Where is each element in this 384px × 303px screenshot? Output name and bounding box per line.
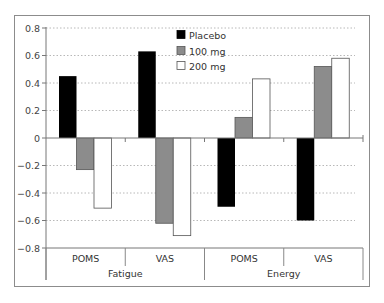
bar-100-mg bbox=[156, 138, 174, 223]
bar-placebo bbox=[59, 76, 77, 138]
y-tick-label: −0.4 bbox=[17, 188, 40, 199]
y-axis-ticks: 0.80.60.40.20−0.2−0.4−0.6−0.8 bbox=[17, 23, 46, 254]
legend-label: 100 mg bbox=[189, 46, 225, 57]
bar-placebo bbox=[218, 138, 236, 207]
bar-200-mg bbox=[173, 138, 191, 236]
x-category-label: VAS bbox=[314, 253, 332, 264]
y-tick-label: 0.2 bbox=[25, 105, 40, 116]
bar-200-mg bbox=[253, 79, 271, 138]
legend-label: Placebo bbox=[189, 30, 226, 41]
legend-swatch bbox=[177, 31, 185, 39]
y-tick-label: −0.6 bbox=[17, 215, 40, 226]
bar-200-mg bbox=[94, 138, 112, 208]
bar-placebo bbox=[138, 51, 156, 138]
x-axis-labels: POMSVASPOMSVASFatigueEnergy bbox=[46, 248, 363, 280]
legend-swatch bbox=[177, 47, 185, 55]
bar-placebo bbox=[297, 138, 315, 221]
y-tick-label: −0.8 bbox=[17, 243, 40, 254]
bar-100-mg bbox=[314, 67, 332, 139]
y-tick-label: 0.6 bbox=[25, 50, 40, 61]
bar-chart: 0.80.60.40.20−0.2−0.4−0.6−0.8 POMSVASPOM… bbox=[0, 0, 384, 303]
x-category-label: POMS bbox=[230, 253, 257, 264]
legend-label: 200 mg bbox=[189, 61, 225, 72]
bar-200-mg bbox=[332, 58, 350, 138]
bar-100-mg bbox=[77, 138, 95, 170]
x-category-label: POMS bbox=[72, 253, 99, 264]
legend-swatch bbox=[177, 62, 185, 70]
x-group-label: Fatigue bbox=[108, 268, 143, 279]
y-tick-label: 0.4 bbox=[25, 78, 40, 89]
y-tick-label: 0.8 bbox=[25, 23, 40, 34]
bar-100-mg bbox=[235, 117, 253, 138]
bars bbox=[59, 51, 349, 235]
x-category-label: VAS bbox=[156, 253, 174, 264]
legend: Placebo100 mg200 mg bbox=[177, 30, 226, 72]
y-tick-label: −0.2 bbox=[17, 160, 40, 171]
y-tick-label: 0 bbox=[34, 133, 40, 144]
x-group-label: Energy bbox=[267, 268, 301, 279]
